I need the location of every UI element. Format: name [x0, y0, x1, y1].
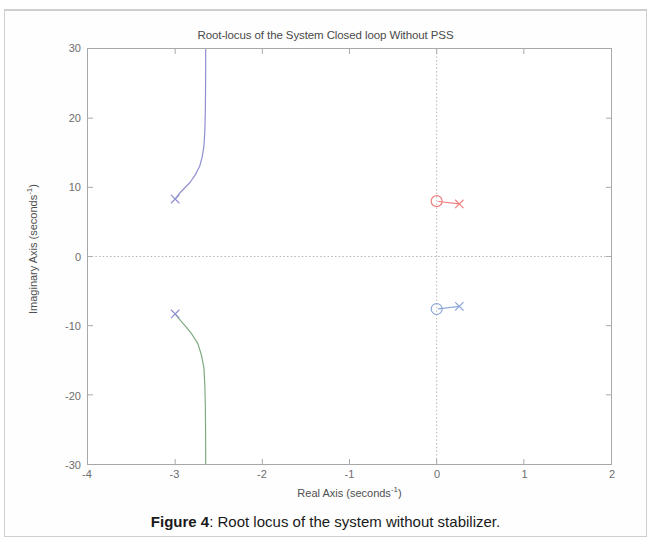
x-axis-tick-labels: -4-3-2-1012 — [87, 468, 612, 486]
y-tick-label: -20 — [65, 390, 81, 402]
x-tick-label: -2 — [257, 468, 267, 480]
pole-upper-left — [171, 195, 179, 203]
y-axis-label-exponent: -1 — [25, 188, 34, 195]
plot-frame — [87, 48, 612, 465]
x-tick-label: 2 — [609, 468, 615, 480]
x-tick-label: -3 — [170, 468, 180, 480]
plot-canvas — [88, 49, 611, 464]
y-tick-label: 0 — [75, 251, 81, 263]
figure-caption: Figure 4: Root locus of the system witho… — [0, 513, 651, 530]
y-tick-label: 20 — [69, 112, 81, 124]
y-tick-label: -10 — [65, 320, 81, 332]
figure-caption-label: Figure 4 — [151, 513, 209, 530]
y-axis-label-tail: ) — [27, 184, 39, 188]
branch-lower-left — [175, 314, 206, 464]
x-tick-label: 0 — [434, 468, 440, 480]
x-tick-label: 1 — [521, 468, 527, 480]
x-tick-label: -4 — [82, 468, 92, 480]
x-axis-label-tail: ) — [398, 487, 402, 499]
x-tick-label: -1 — [345, 468, 355, 480]
x-axis-label-main: Real Axis (seconds — [297, 487, 391, 499]
figure-caption-text: : Root locus of the system without stabi… — [209, 513, 500, 530]
y-axis-label-main: Imaginary Axis (seconds — [27, 195, 39, 314]
chart-title: Root-locus of the System Closed loop Wit… — [0, 29, 651, 41]
y-tick-label: -30 — [65, 459, 81, 471]
pole-lower-left — [171, 310, 179, 318]
x-axis-label-exponent: -1 — [391, 485, 398, 494]
y-axis-tick-labels: -30-20-100102030 — [48, 48, 81, 465]
figure-root-locus: Root-locus of the System Closed loop Wit… — [0, 0, 651, 549]
branch-upper-left — [175, 49, 206, 199]
y-tick-label: 10 — [69, 181, 81, 193]
y-axis-label: Imaginary Axis (seconds-1) — [27, 134, 39, 364]
chart-area: Root-locus of the System Closed loop Wit… — [0, 18, 651, 498]
x-axis-label: Real Axis (seconds-1) — [87, 487, 612, 499]
y-tick-label: 30 — [69, 42, 81, 54]
